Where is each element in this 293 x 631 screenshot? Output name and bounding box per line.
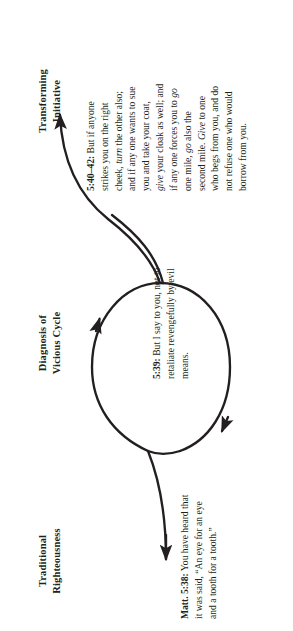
cycle-loop-close [148, 451, 180, 454]
cycle-loop-lower-arrow [222, 417, 228, 431]
entry-arrow-tail [148, 451, 166, 559]
caption-reference-5-38: Matt. 5:38: [179, 573, 190, 619]
caption-reference-5-39: 5:39: [151, 358, 162, 379]
caption-matthew-5-40-42: 5:40–42: But if anyone strikes you on th… [84, 83, 250, 191]
caption-reference-5-40-42: 5:40–42: [85, 156, 96, 191]
stage-heading-traditional-righteousness: Traditional Righteousness [36, 501, 64, 621]
stage-heading-diagnosis-of-vicious-cycle: Diagnosis of Vicious Cycle [36, 283, 64, 403]
caption-body-5-40-42: But if anyone strikes you on the right c… [85, 84, 248, 191]
caption-matthew-5-39: 5:39: But I say to you, not to retaliate… [150, 257, 191, 379]
caption-matthew-5-38: Matt. 5:38: You have heard that it was s… [178, 493, 219, 619]
stage-heading-transforming-initiative: Transforming Initiative [36, 41, 64, 161]
diagram-canvas: Traditional Righteousness Diagnosis of V… [0, 0, 293, 631]
